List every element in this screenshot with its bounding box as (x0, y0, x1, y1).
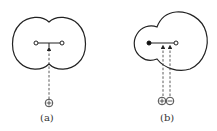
panel-a: (a) (13, 17, 86, 123)
positive-charge-icon (158, 97, 166, 105)
molecular-polarization-figure: (a) (b) (0, 0, 217, 131)
positive-charge-icon (45, 99, 53, 107)
nucleus-right-a (60, 41, 64, 45)
nucleus-right-b (174, 41, 178, 45)
asymmetric-electron-cloud (134, 12, 207, 70)
panel-label-a: (a) (40, 112, 54, 123)
panel-b: (b) (134, 12, 207, 123)
nucleus-left-b (147, 41, 151, 45)
panel-label-b: (b) (160, 112, 174, 123)
nucleus-left-a (34, 41, 38, 45)
negative-charge-icon (166, 97, 174, 105)
